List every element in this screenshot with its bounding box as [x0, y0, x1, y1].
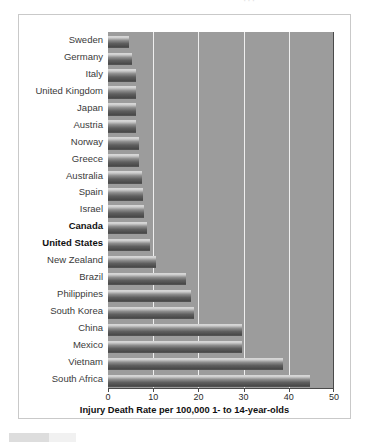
y-axis-label: South Korea	[19, 303, 108, 320]
bar[interactable]	[108, 36, 129, 48]
y-axis-label: Israel	[19, 201, 108, 218]
bar-row	[108, 354, 333, 371]
x-axis-title: Injury Death Rate per 100,000 1- to 14-y…	[19, 405, 350, 415]
top-cropped-text-strip: ···	[0, 0, 369, 14]
bar[interactable]	[108, 171, 142, 183]
y-axis-label: Mexico	[19, 337, 108, 354]
plot-area	[108, 32, 334, 388]
x-axis-tick-label: 10	[148, 392, 158, 402]
bar-row	[108, 117, 333, 134]
bar-row	[108, 66, 333, 83]
scan-artifact-box	[9, 433, 49, 442]
figure-panel: SwedenGermanyItalyUnited KingdomJapanAus…	[18, 14, 351, 419]
bar[interactable]	[108, 290, 191, 302]
bar[interactable]	[108, 69, 136, 81]
bar[interactable]	[108, 222, 147, 234]
y-axis-category-labels: SwedenGermanyItalyUnited KingdomJapanAus…	[19, 32, 108, 388]
bar-row	[108, 235, 333, 252]
bar-row	[108, 269, 333, 286]
bar[interactable]	[108, 154, 139, 166]
bar-row	[108, 151, 333, 168]
bar-row	[108, 337, 333, 354]
y-axis-label: Greece	[19, 151, 108, 168]
y-axis-label: United Kingdom	[19, 83, 108, 100]
x-axis-tick-label: 0	[105, 392, 110, 402]
y-axis-label: Sweden	[19, 32, 108, 49]
bar-row	[108, 32, 333, 49]
y-axis-label: Spain	[19, 184, 108, 201]
x-axis-tick-label: 20	[193, 392, 203, 402]
bar[interactable]	[108, 324, 242, 336]
y-axis-label: Japan	[19, 100, 108, 117]
y-axis-label: Germany	[19, 49, 108, 66]
bar-row	[108, 134, 333, 151]
y-axis-label: Austria	[19, 117, 108, 134]
x-axis-tick-labels: 01020304050	[108, 392, 334, 406]
bar[interactable]	[108, 358, 283, 370]
bar[interactable]	[108, 256, 156, 268]
y-axis-label: Vietnam	[19, 354, 108, 371]
bar[interactable]	[108, 375, 310, 387]
bar-row	[108, 202, 333, 219]
y-axis-label: China	[19, 320, 108, 337]
bar[interactable]	[108, 239, 150, 251]
bar-row	[108, 218, 333, 235]
y-axis-label: Philippines	[19, 286, 108, 303]
bar[interactable]	[108, 273, 186, 285]
x-axis-tick-label: 40	[284, 392, 294, 402]
bar[interactable]	[108, 53, 132, 65]
bar[interactable]	[108, 341, 242, 353]
y-axis-label: Norway	[19, 134, 108, 151]
x-axis-tick-label: 50	[329, 392, 339, 402]
bar[interactable]	[108, 205, 144, 217]
bar-row	[108, 168, 333, 185]
bar-row	[108, 320, 333, 337]
bar[interactable]	[108, 120, 136, 132]
x-axis-tick-label: 30	[239, 392, 249, 402]
bar[interactable]	[108, 103, 136, 115]
bar-chart: SwedenGermanyItalyUnited KingdomJapanAus…	[19, 15, 350, 418]
ghost-text: ···	[243, 0, 256, 6]
bar-row	[108, 83, 333, 100]
scan-artifact-trail	[49, 433, 76, 442]
bar-row	[108, 303, 333, 320]
bar-row	[108, 286, 333, 303]
y-axis-label: United States	[19, 235, 108, 252]
y-axis-label: Italy	[19, 66, 108, 83]
x-axis-line	[108, 388, 334, 390]
bar[interactable]	[108, 188, 143, 200]
bar[interactable]	[108, 86, 136, 98]
y-axis-label: New Zealand	[19, 252, 108, 269]
bar-row	[108, 100, 333, 117]
y-axis-label: Brazil	[19, 269, 108, 286]
bar-row	[108, 371, 333, 388]
y-axis-label: South Africa	[19, 371, 108, 388]
bar[interactable]	[108, 307, 194, 319]
y-axis-label: Canada	[19, 218, 108, 235]
bar-row	[108, 252, 333, 269]
bar[interactable]	[108, 137, 139, 149]
bar-row	[108, 185, 333, 202]
y-axis-label: Australia	[19, 168, 108, 185]
bar-row	[108, 49, 333, 66]
